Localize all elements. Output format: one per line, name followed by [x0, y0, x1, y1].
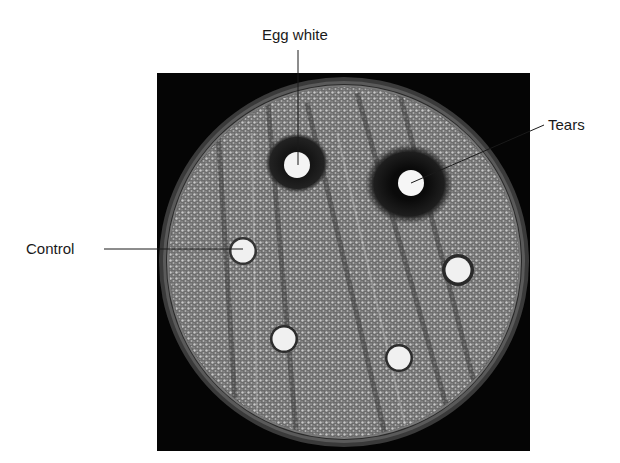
tears-disc [398, 170, 424, 196]
petri-dish-illustration [157, 73, 530, 451]
control-label: Control [26, 241, 74, 256]
test-disc-bottom-right [388, 347, 411, 370]
test-disc-bottom-left [273, 328, 296, 351]
tears-label: Tears [548, 117, 585, 132]
test-disc-right [446, 258, 471, 283]
egg-white-label: Egg white [262, 27, 328, 42]
petri-dish-photo [157, 73, 530, 451]
control-disc [232, 240, 255, 263]
egg-white-disc [284, 152, 310, 178]
